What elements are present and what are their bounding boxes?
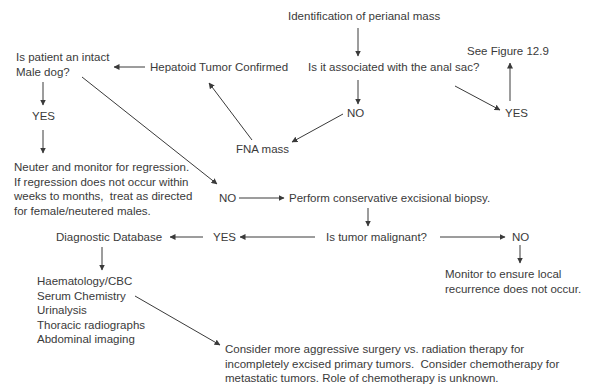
neuter-instructions: Neuter and monitor for regression. If re…	[14, 160, 192, 218]
excisional-biopsy-node: Perform conservative excisional biopsy.	[289, 191, 490, 206]
anal-sac-question: Is it associated with the anal sac?	[308, 60, 479, 75]
anal-sac-no-label: NO	[347, 106, 364, 121]
diagnostic-tests-list: Haematology/CBC Serum Chemistry Urinalys…	[37, 274, 145, 347]
hepatoid-confirmed-node: Hepatoid Tumor Confirmed	[150, 60, 288, 75]
intact-male-no-label: NO	[219, 191, 236, 206]
malignant-no-label: NO	[512, 230, 529, 245]
monitor-recurrence-node: Monitor to ensure local recurrence does …	[445, 267, 581, 296]
malignant-yes-label: YES	[213, 230, 236, 245]
aggressive-treatment-node: Consider more aggressive surgery vs. rad…	[225, 342, 559, 386]
diagnostic-database-node: Diagnostic Database	[56, 230, 162, 245]
fna-mass-node: FNA mass	[236, 142, 289, 157]
malignant-question: Is tumor malignant?	[326, 230, 427, 245]
arrow-no-to-fna	[292, 114, 343, 142]
see-figure-note: See Figure 12.9	[467, 44, 549, 59]
intact-male-question: Is patient an intact Male dog?	[16, 50, 109, 79]
arrow-analsac-to-yes	[455, 86, 500, 110]
start-node: Identification of perianal mass	[288, 9, 440, 24]
intact-male-yes-label: YES	[32, 109, 55, 124]
arrow-fna-to-hepatoid	[209, 83, 252, 140]
anal-sac-yes-label: YES	[505, 106, 528, 121]
arrow-tests-to-treatment	[135, 296, 220, 345]
